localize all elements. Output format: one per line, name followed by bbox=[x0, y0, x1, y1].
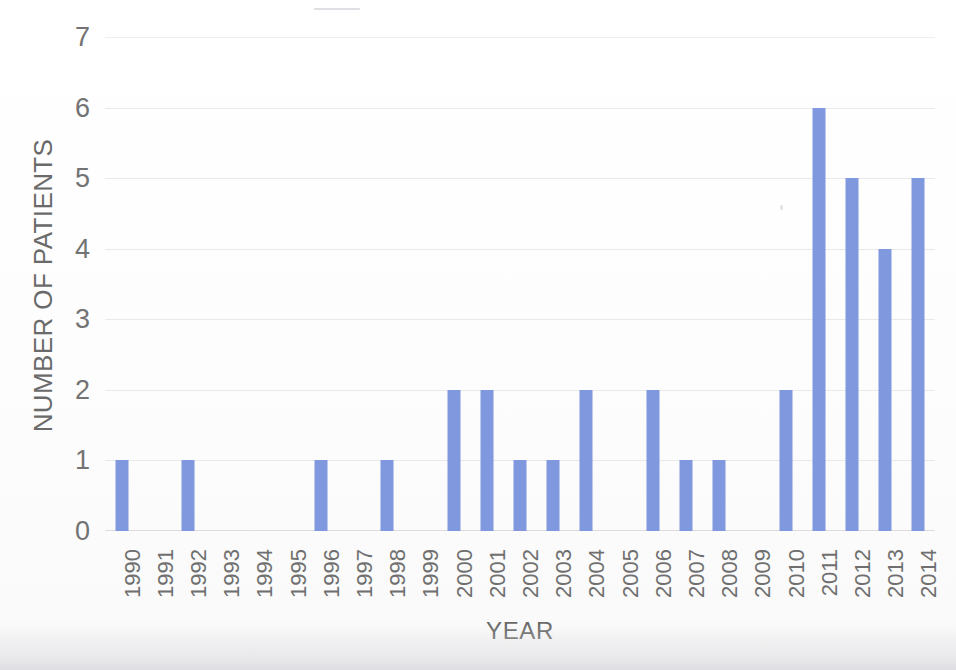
gridline-2 bbox=[105, 390, 935, 391]
bar bbox=[480, 390, 493, 531]
bar bbox=[680, 460, 693, 531]
bar bbox=[812, 108, 825, 531]
gridline-4 bbox=[105, 249, 935, 250]
y-tick-label: 6 bbox=[36, 92, 90, 123]
y-tick-label: 7 bbox=[36, 22, 90, 53]
y-tick-label: 2 bbox=[36, 374, 90, 405]
bar bbox=[314, 460, 327, 531]
bar bbox=[115, 460, 128, 531]
bar bbox=[713, 460, 726, 531]
bar bbox=[580, 390, 593, 531]
y-tick-label: 1 bbox=[36, 445, 90, 476]
scan-speck bbox=[314, 8, 360, 10]
gridline-5 bbox=[105, 178, 935, 179]
bar bbox=[846, 178, 859, 531]
bar bbox=[912, 178, 925, 531]
x-axis-title: YEAR bbox=[105, 617, 935, 645]
bar bbox=[514, 460, 527, 531]
y-axis-tick-labels: 01234567 bbox=[30, 0, 90, 670]
gridline-7 bbox=[105, 37, 935, 38]
bar-chart-figure: NUMBER OF PATIENTS 01234567 199019911992… bbox=[0, 0, 956, 670]
y-tick-label: 4 bbox=[36, 233, 90, 264]
bar bbox=[182, 460, 195, 531]
plot-area bbox=[105, 37, 935, 531]
y-tick-label: 3 bbox=[36, 304, 90, 335]
x-axis-tick-labels: 1990199119921993199419951996199719981999… bbox=[105, 531, 935, 617]
y-tick-label: 5 bbox=[36, 163, 90, 194]
bar bbox=[879, 249, 892, 531]
bar bbox=[381, 460, 394, 531]
gridline-3 bbox=[105, 319, 935, 320]
y-tick-label: 0 bbox=[36, 516, 90, 547]
gridline-6 bbox=[105, 108, 935, 109]
bar bbox=[646, 390, 659, 531]
bar bbox=[447, 390, 460, 531]
bar bbox=[779, 390, 792, 531]
bar bbox=[547, 460, 560, 531]
